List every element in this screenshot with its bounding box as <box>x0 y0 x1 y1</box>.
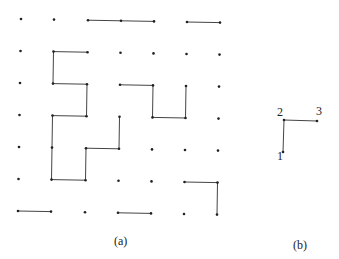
lattice-point <box>218 85 221 88</box>
path-segment <box>118 213 151 214</box>
path-segment <box>52 116 53 148</box>
lattice-point <box>52 50 55 53</box>
lattice-point <box>217 117 220 120</box>
path-segment <box>187 22 220 23</box>
caption-a: (a) <box>114 234 127 248</box>
lattice-point <box>150 180 153 183</box>
lattice-point <box>152 84 155 87</box>
lattice-point <box>19 82 22 85</box>
lattice-point <box>218 53 221 56</box>
lattice-point <box>51 146 54 149</box>
path-segment <box>87 84 88 116</box>
lattice-point <box>85 147 88 150</box>
lattice-point <box>185 85 188 88</box>
lattice-point <box>86 51 89 54</box>
path-segment <box>53 116 87 117</box>
lattice-point <box>183 213 186 216</box>
lattice-point <box>185 53 188 56</box>
lattice-point <box>219 21 222 24</box>
figure: (a) 1 2 3 (b) <box>0 0 339 259</box>
lattice-point <box>87 19 90 22</box>
lattice-point <box>150 212 153 215</box>
panel-b-path: 1 2 3 <box>277 104 322 163</box>
lattice-point <box>18 114 21 117</box>
lattice-point <box>52 82 55 85</box>
lattice-point <box>184 149 187 152</box>
path-segment <box>86 148 87 180</box>
caption-b: (b) <box>293 238 307 252</box>
lattice-point <box>85 115 88 118</box>
lattice-point <box>53 18 56 21</box>
path-segment <box>53 52 54 84</box>
path-segment <box>153 117 186 118</box>
lattice-point <box>51 114 54 117</box>
path-segment <box>88 20 121 21</box>
lattice-point <box>186 21 189 24</box>
lattice-point <box>118 116 121 119</box>
lattice-point <box>216 213 219 216</box>
path-segment <box>121 21 154 22</box>
path-segment <box>52 148 53 180</box>
lattice-point <box>153 20 156 23</box>
lattice-point <box>84 179 87 182</box>
path-segment <box>52 180 86 181</box>
lattice-point <box>84 211 87 214</box>
lattice-point <box>217 149 220 152</box>
path-segment <box>217 183 218 215</box>
lattice-point <box>120 20 123 23</box>
lattice-point <box>151 116 154 119</box>
lattice-point <box>152 52 155 55</box>
lattice-point <box>119 84 122 87</box>
path-segment <box>86 148 119 149</box>
path-segment <box>120 85 153 86</box>
lattice-point <box>17 210 20 213</box>
lattice-point <box>183 181 186 184</box>
point-3 <box>316 120 319 123</box>
path-segment <box>54 52 88 53</box>
path-segment <box>119 117 120 149</box>
lattice-point <box>50 210 53 213</box>
path-segment <box>153 85 154 117</box>
point-2 <box>283 119 286 122</box>
lattice-point <box>19 50 22 53</box>
lattice-point <box>118 148 121 151</box>
lattice-point <box>184 117 187 120</box>
panel-a-lattice <box>17 18 222 216</box>
lattice-point <box>17 178 20 181</box>
lattice-point <box>216 181 219 184</box>
lattice-point <box>119 52 122 55</box>
segment-1-2 <box>283 120 284 152</box>
lattice-point <box>117 180 120 183</box>
segment-2-3 <box>284 120 317 121</box>
lattice-point <box>151 148 154 151</box>
lattice-point <box>117 212 120 215</box>
path-segment <box>18 211 51 212</box>
label-point-3: 3 <box>316 104 322 118</box>
path-segment <box>186 86 187 118</box>
lattice-point <box>20 18 23 21</box>
lattice-point <box>50 178 53 181</box>
lattice-point <box>18 146 21 149</box>
lattice-point <box>86 83 89 86</box>
path-segment <box>185 182 218 183</box>
label-point-1: 1 <box>277 149 283 163</box>
label-point-2: 2 <box>277 105 283 119</box>
path-segment <box>53 84 87 85</box>
lattice-points <box>17 18 222 216</box>
